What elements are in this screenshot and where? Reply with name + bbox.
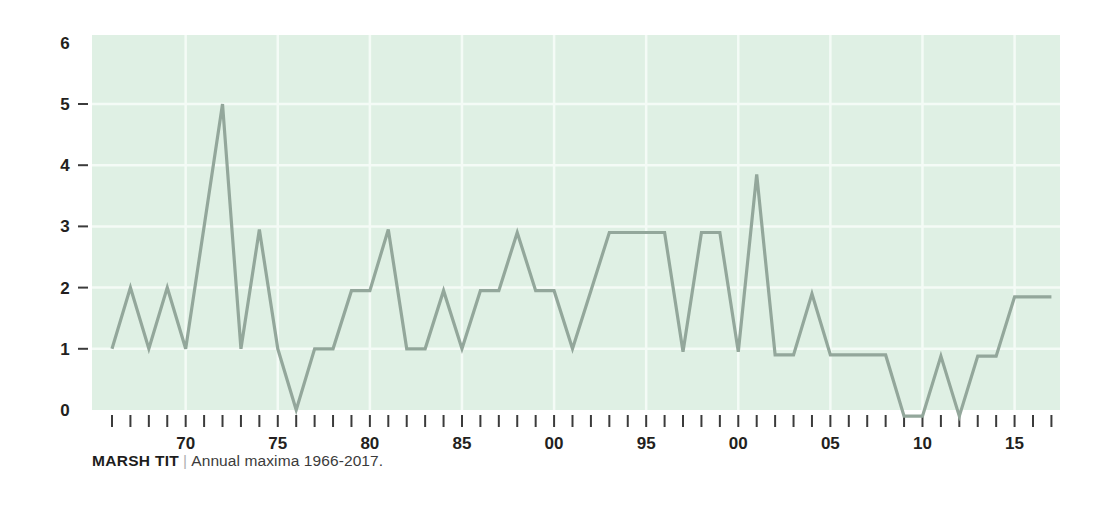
x-tick-label-1970: 70 [176, 434, 195, 453]
x-tick-label-1975: 75 [268, 434, 287, 453]
plot-area-background [92, 35, 1060, 410]
y-tick-label-4: 4 [60, 156, 70, 175]
x-tick-label-2000: 00 [729, 434, 748, 453]
x-axis-labels: 70758085009500051015 [176, 434, 1024, 453]
y-tick-label-3: 3 [60, 217, 69, 236]
y-tick-label-0: 0 [60, 401, 69, 420]
y-axis-ticks: 0123456 [60, 34, 88, 420]
y-tick-label-2: 2 [60, 279, 69, 298]
marsh-tit-figure: 012345670758085009500051015 MARSH TIT|An… [0, 0, 1110, 505]
caption-subtitle: Annual maxima 1966-2017. [191, 452, 383, 469]
x-tick-label-2010: 10 [913, 434, 932, 453]
x-tick-label-1990: 00 [545, 434, 564, 453]
annual-maxima-line-chart: 012345670758085009500051015 [0, 0, 1110, 505]
y-tick-label-5: 5 [60, 95, 69, 114]
caption-species: MARSH TIT [92, 452, 179, 469]
x-tick-label-2005: 05 [821, 434, 840, 453]
x-tick-label-1985: 85 [453, 434, 472, 453]
y-tick-label-1: 1 [60, 340, 69, 359]
x-tick-label-2015: 15 [1005, 434, 1024, 453]
y-tick-label-6: 6 [60, 34, 69, 53]
caption-separator: | [179, 452, 191, 469]
figure-caption: MARSH TIT|Annual maxima 1966-2017. [92, 452, 383, 470]
x-tick-label-1995: 95 [637, 434, 656, 453]
x-tick-label-1980: 80 [360, 434, 379, 453]
